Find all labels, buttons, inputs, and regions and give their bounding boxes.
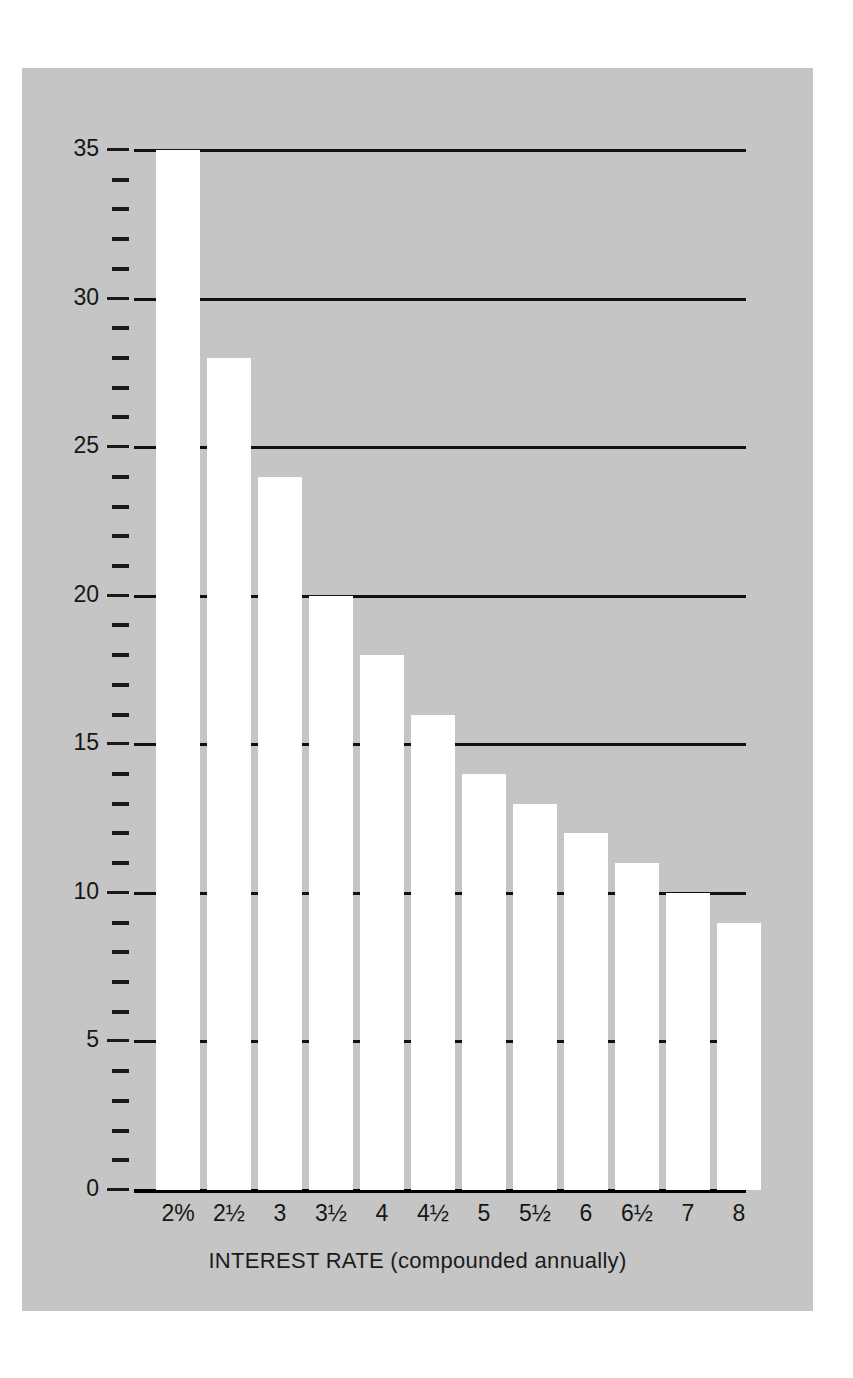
y-axis-major-tick (107, 148, 129, 151)
y-axis-major-tick (107, 891, 129, 894)
y-axis-minor-tick (112, 207, 129, 211)
bar (360, 655, 404, 1190)
y-axis-minor-tick (112, 475, 129, 479)
y-axis-tick-label: 10 (41, 878, 99, 905)
y-axis-tick-label: 15 (41, 729, 99, 756)
bar (258, 477, 302, 1190)
y-axis-minor-tick (112, 564, 129, 568)
y-axis-minor-tick (112, 356, 129, 360)
y-axis-minor-tick (112, 980, 129, 984)
bar (309, 596, 353, 1190)
y-axis-major-tick (107, 1039, 129, 1042)
y-axis-major-tick (107, 742, 129, 745)
y-axis-minor-tick (112, 713, 129, 717)
bar (564, 833, 608, 1190)
y-axis-minor-tick (112, 861, 129, 865)
y-axis-minor-tick (112, 623, 129, 627)
bar-series (134, 150, 746, 1190)
y-axis-minor-tick (112, 237, 129, 241)
bar (207, 358, 251, 1190)
y-axis-minor-tick (112, 267, 129, 271)
y-axis-minor-tick (112, 831, 129, 835)
bar (615, 863, 659, 1190)
bar (462, 774, 506, 1190)
chart-figure: APPROXIMATE NUMBER OF YEARS TO DOUBLE IN… (22, 68, 813, 1311)
y-axis-minor-tick (112, 683, 129, 687)
y-axis-minor-tick (112, 178, 129, 182)
bar (513, 804, 557, 1190)
y-axis-minor-tick (112, 505, 129, 509)
y-axis-tick-label: 0 (41, 1175, 99, 1202)
y-axis-minor-tick (112, 653, 129, 657)
y-axis-minor-tick (112, 950, 129, 954)
y-axis-major-tick (107, 594, 129, 597)
y-axis-minor-tick (112, 921, 129, 925)
y-axis-tick-label: 5 (41, 1026, 99, 1053)
bar (717, 923, 761, 1190)
y-axis-minor-tick (112, 415, 129, 419)
y-axis-minor-tick (112, 1129, 129, 1133)
y-axis-tick-label: 25 (41, 432, 99, 459)
y-axis-minor-tick (112, 1010, 129, 1014)
y-axis-tick-label: 30 (41, 284, 99, 311)
y-axis-major-tick (107, 445, 129, 448)
y-axis-tick-label: 35 (41, 135, 99, 162)
y-axis-tick-label: 20 (41, 581, 99, 608)
y-axis-minor-tick (112, 1069, 129, 1073)
y-axis-minor-tick (112, 1158, 129, 1162)
bar (156, 150, 200, 1190)
bar (666, 893, 710, 1190)
y-axis-minor-tick (112, 772, 129, 776)
bar (411, 715, 455, 1190)
y-axis-minor-tick (112, 1099, 129, 1103)
y-axis-minor-tick (112, 534, 129, 538)
y-axis-minor-tick (112, 386, 129, 390)
y-axis-minor-tick (112, 802, 129, 806)
x-axis-tick-label: 8 (709, 1200, 769, 1227)
x-axis-title: INTEREST RATE (compounded annually) (22, 1248, 813, 1274)
y-axis-minor-tick (112, 326, 129, 330)
y-axis-major-tick (107, 297, 129, 300)
y-axis-major-tick (107, 1188, 129, 1191)
